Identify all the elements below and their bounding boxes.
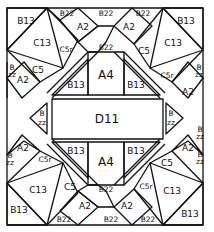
svg-text:A4: A4	[98, 68, 114, 82]
svg-text:B22: B22	[141, 215, 156, 224]
svg-text:C13: C13	[163, 186, 181, 196]
svg-text:B13: B13	[127, 146, 145, 156]
svg-text:A2: A2	[79, 201, 91, 211]
svg-text:B13: B13	[10, 205, 28, 215]
svg-text:A2: A2	[123, 22, 135, 32]
svg-text:B22: B22	[60, 9, 75, 18]
svg-text:B22: B22	[136, 9, 151, 18]
svg-text:C5r: C5r	[59, 45, 73, 54]
svg-text:C13: C13	[33, 38, 51, 48]
svg-text:zz: zz	[196, 157, 204, 166]
svg-text:C5: C5	[161, 158, 173, 168]
svg-text:B: B	[39, 109, 44, 118]
svg-text:B13: B13	[67, 146, 85, 156]
svg-text:B22: B22	[57, 215, 72, 224]
svg-text:C5r: C5r	[139, 182, 153, 191]
svg-text:A4: A4	[98, 155, 114, 169]
svg-text:B22: B22	[99, 185, 114, 194]
svg-text:zz: zz	[195, 70, 203, 79]
svg-text:C13: C13	[164, 38, 182, 48]
svg-text:C5: C5	[32, 65, 44, 75]
svg-text:B22: B22	[104, 215, 119, 224]
svg-text:C13: C13	[29, 185, 47, 195]
svg-text:A2: A2	[17, 75, 29, 85]
svg-text:A2: A2	[121, 201, 133, 211]
svg-text:A2: A2	[77, 22, 89, 32]
svg-text:C5r: C5r	[160, 71, 174, 80]
svg-text:A2: A2	[182, 87, 194, 97]
svg-text:B13: B13	[181, 209, 199, 219]
svg-text:B13: B13	[127, 80, 145, 90]
svg-text:zz: zz	[167, 118, 175, 127]
svg-text:zz: zz	[8, 70, 16, 79]
svg-text:zz: zz	[196, 132, 204, 141]
svg-text:C5: C5	[64, 182, 76, 192]
svg-text:B22: B22	[99, 43, 114, 52]
svg-text:B13: B13	[17, 16, 35, 26]
svg-text:zz: zz	[38, 118, 46, 127]
svg-text:C5: C5	[138, 46, 150, 56]
svg-text:A2: A2	[17, 143, 29, 153]
svg-text:B13: B13	[67, 80, 85, 90]
svg-text:zz: zz	[6, 158, 14, 167]
svg-text:D11: D11	[95, 112, 120, 126]
svg-text:A2: A2	[182, 143, 194, 153]
piece-labels: B13 C13 C5r C5 B zz A2 B22 B22 B22 A2 A2…	[6, 9, 204, 224]
svg-text:C5r: C5r	[38, 155, 52, 164]
svg-text:B13: B13	[177, 16, 195, 26]
svg-text:B22: B22	[99, 9, 114, 18]
quilt-block-diagram: B13 C13 C5r C5 B zz A2 B22 B22 B22 A2 A2…	[0, 0, 214, 232]
svg-text:B: B	[168, 109, 173, 118]
